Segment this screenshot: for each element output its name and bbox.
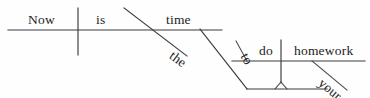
word-now: Now <box>28 13 55 27</box>
sentence-diagram-canvas: Now is the time to do homework your <box>0 0 370 98</box>
word-is: is <box>96 13 105 27</box>
word-do: do <box>259 44 273 58</box>
pedestal-left-stroke <box>275 82 281 89</box>
word-time: time <box>166 13 191 27</box>
pedestal-right-stroke <box>281 82 287 89</box>
word-homework: homework <box>294 44 353 58</box>
